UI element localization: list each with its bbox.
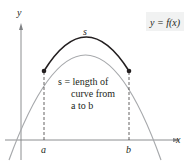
annotation-line-2: curve from bbox=[71, 88, 115, 99]
arc-label: s bbox=[83, 26, 87, 37]
point-a-label: a bbox=[41, 144, 46, 155]
point-a-dot bbox=[42, 69, 47, 74]
point-b-dot bbox=[127, 69, 132, 74]
annotation-line-1: s = length of bbox=[58, 76, 109, 87]
function-label: y = f(x) bbox=[149, 17, 181, 29]
x-axis-label: x bbox=[175, 134, 181, 145]
y-axis-label: y bbox=[16, 7, 22, 18]
point-b-label: b bbox=[126, 144, 131, 155]
arc-length-diagram: y x y = f(x) s a b s = length of curve f… bbox=[0, 0, 184, 162]
y-axis-arrow-icon bbox=[19, 23, 23, 30]
annotation-line-3: a to b bbox=[71, 100, 93, 111]
arc-s bbox=[44, 37, 129, 71]
